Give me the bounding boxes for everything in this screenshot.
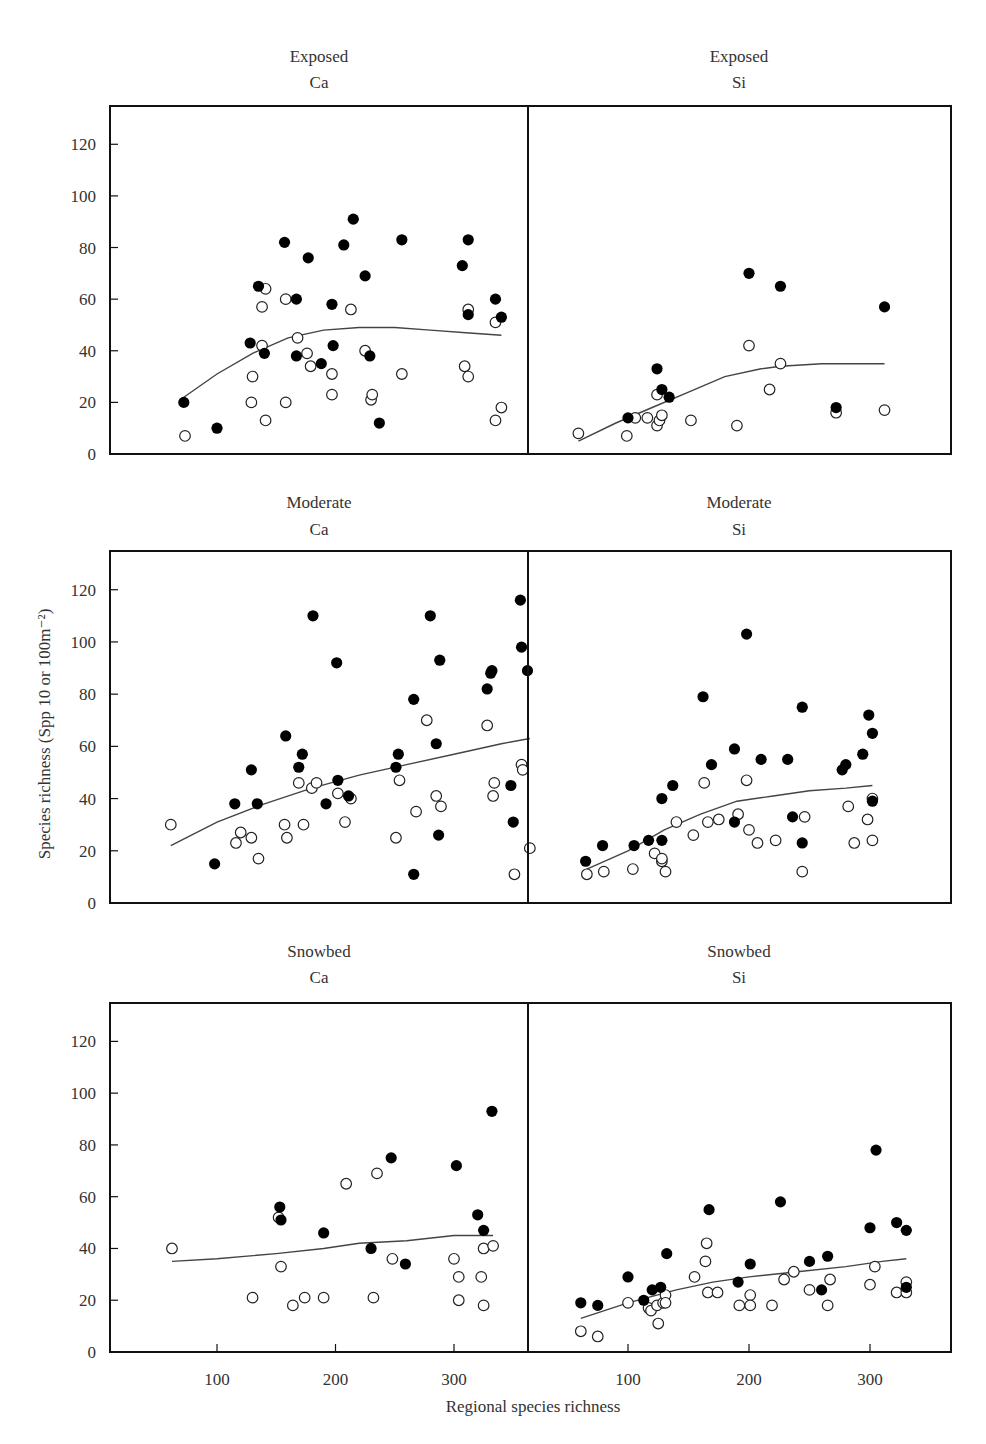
- open-point: [387, 1254, 398, 1265]
- filled-point: [297, 749, 308, 760]
- open-point: [525, 843, 536, 854]
- trend-line: [587, 786, 873, 870]
- open-point: [449, 1254, 460, 1265]
- filled-point: [775, 1196, 786, 1207]
- filled-point: [667, 780, 678, 791]
- filled-point: [252, 798, 263, 809]
- filled-point: [816, 1284, 827, 1295]
- filled-point: [320, 798, 331, 809]
- open-point: [327, 389, 338, 400]
- filled-point: [331, 657, 342, 668]
- filled-point: [318, 1227, 329, 1238]
- filled-point: [457, 260, 468, 271]
- open-point: [660, 1298, 671, 1309]
- filled-point: [863, 709, 874, 720]
- filled-point: [434, 655, 445, 666]
- filled-point: [209, 858, 220, 869]
- open-point: [167, 1243, 178, 1254]
- filled-point: [891, 1217, 902, 1228]
- scatter-figure: ExposedCa020406080100120ExposedSiModerat…: [0, 0, 986, 1444]
- open-point: [311, 778, 322, 789]
- panel-frame: [528, 551, 951, 903]
- y-axis-label: Species richness (Spp 10 or 100m⁻²): [35, 609, 54, 860]
- filled-point: [797, 702, 808, 713]
- open-point: [280, 397, 291, 408]
- open-point: [573, 428, 584, 439]
- filled-point: [508, 816, 519, 827]
- filled-point: [743, 268, 754, 279]
- open-point: [879, 405, 890, 416]
- open-point: [260, 415, 271, 426]
- y-tick-label: 0: [88, 1343, 97, 1362]
- filled-point: [756, 754, 767, 765]
- filled-point: [651, 363, 662, 374]
- open-point: [688, 830, 699, 841]
- x-tick-label: 300: [857, 1370, 883, 1389]
- open-point: [257, 302, 268, 313]
- open-point: [231, 838, 242, 849]
- open-point: [298, 819, 309, 830]
- open-point: [621, 431, 632, 442]
- open-point: [509, 869, 520, 880]
- filled-point: [274, 1201, 285, 1212]
- filled-point: [580, 856, 591, 867]
- filled-point: [348, 214, 359, 225]
- open-point: [246, 832, 257, 843]
- x-tick-label: 100: [204, 1370, 230, 1389]
- trend-line: [578, 364, 884, 441]
- open-point: [367, 389, 378, 400]
- y-tick-label: 0: [88, 894, 97, 913]
- open-point: [453, 1272, 464, 1283]
- open-point: [253, 853, 264, 864]
- y-tick-label: 0: [88, 445, 97, 464]
- panel-title-substrate: Ca: [310, 968, 329, 987]
- open-point: [703, 1287, 714, 1298]
- filled-point: [575, 1297, 586, 1308]
- open-point: [478, 1300, 489, 1311]
- y-tick-label: 100: [71, 187, 97, 206]
- open-point: [293, 778, 304, 789]
- filled-point: [400, 1258, 411, 1269]
- open-point: [867, 835, 878, 846]
- open-point: [292, 333, 303, 344]
- y-tick-label: 20: [79, 393, 96, 412]
- filled-point: [733, 1277, 744, 1288]
- open-point: [235, 827, 246, 838]
- open-point: [576, 1326, 587, 1337]
- filled-point: [178, 397, 189, 408]
- filled-point: [901, 1282, 912, 1293]
- open-point: [327, 369, 338, 380]
- open-point: [865, 1279, 876, 1290]
- open-point: [341, 1178, 352, 1189]
- y-tick-label: 120: [71, 135, 97, 154]
- panel-title-substrate: Ca: [310, 520, 329, 539]
- filled-point: [901, 1225, 912, 1236]
- filled-point: [729, 743, 740, 754]
- open-point: [703, 817, 714, 828]
- open-point: [276, 1261, 287, 1272]
- trend-line: [172, 1236, 493, 1262]
- filled-point: [332, 775, 343, 786]
- filled-point: [246, 764, 257, 775]
- panel-title-substrate: Si: [732, 520, 746, 539]
- open-point: [653, 1318, 664, 1329]
- filled-point: [638, 1295, 649, 1306]
- filled-point: [831, 402, 842, 413]
- filled-point: [365, 1243, 376, 1254]
- filled-point: [664, 392, 675, 403]
- y-tick-label: 80: [79, 1136, 96, 1155]
- open-point: [488, 1241, 499, 1252]
- open-point: [804, 1285, 815, 1296]
- open-point: [689, 1272, 700, 1283]
- open-point: [843, 801, 854, 812]
- open-point: [713, 814, 724, 825]
- panel-moderate-si: ModerateSi: [528, 493, 951, 903]
- filled-point: [451, 1160, 462, 1171]
- open-point: [764, 384, 775, 395]
- panel-title-habitat: Snowbed: [287, 942, 351, 961]
- open-point: [700, 1256, 711, 1267]
- filled-point: [655, 1282, 666, 1293]
- open-point: [489, 778, 500, 789]
- y-tick-label: 40: [79, 1239, 96, 1258]
- filled-point: [787, 811, 798, 822]
